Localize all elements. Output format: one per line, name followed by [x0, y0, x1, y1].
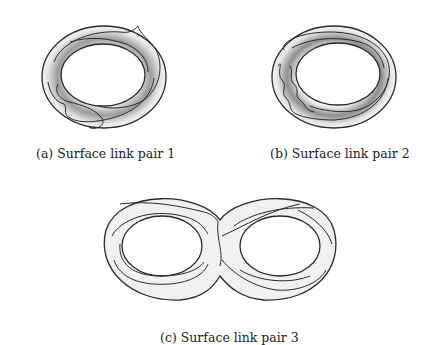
surface-link-diagram-a [40, 22, 170, 132]
caption-c: (c) Surface link pair 3 [160, 330, 299, 345]
subfigure-b [270, 22, 400, 132]
subfigure-a [40, 22, 170, 132]
surface-link-diagram-b [270, 22, 400, 132]
surface-link-diagram-c [100, 190, 340, 308]
caption-b: (b) Surface link pair 2 [270, 146, 410, 161]
subfigure-c [100, 190, 340, 308]
caption-a: (a) Surface link pair 1 [36, 146, 175, 161]
